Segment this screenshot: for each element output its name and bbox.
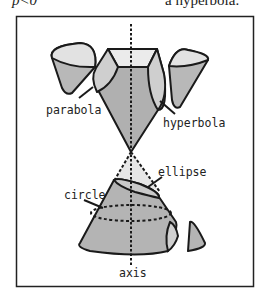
label-ellipse: ellipse [158,165,207,179]
label-parabola: parabola [46,103,101,117]
label-hyperbola: hyperbola [163,116,225,130]
label-circle: circle [64,188,106,202]
label-axis: axis [119,266,147,280]
conic-sections-diagram: parabola hyperbola ellipse circle axis [0,0,268,299]
